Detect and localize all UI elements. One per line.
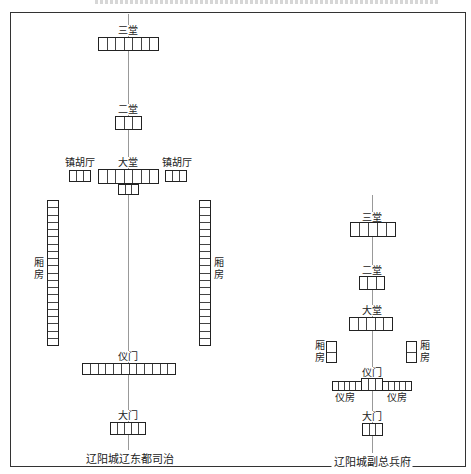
left-damen-block [110, 422, 146, 435]
left-xiangfang-left-label: 厢房 [33, 257, 44, 281]
left-ertang-block [115, 116, 142, 130]
left-zhenhuting-left-block [69, 170, 91, 182]
right-yifang-right-block [382, 381, 412, 391]
right-damen-label: 大门 [361, 411, 383, 422]
left-ertang-label: 二堂 [117, 104, 139, 115]
right-datang-label: 大堂 [361, 305, 383, 316]
left-zhenhuting-left-label: 镇胡厅 [64, 157, 96, 168]
right-plan-caption: 辽阳城副总兵府 [332, 453, 413, 469]
right-yimen-label: 仪门 [361, 367, 383, 378]
right-damen-block [362, 423, 383, 436]
left-xiangfang-right-block [199, 200, 211, 346]
left-santang-label: 三堂 [117, 25, 139, 36]
left-datang-rear-block [118, 184, 139, 195]
right-yifang-right-label: 仪房 [386, 392, 408, 403]
right-xiangfang-right-label: 厢房 [419, 340, 430, 364]
left-datang-label: 大堂 [117, 157, 139, 168]
left-zhenhuting-right-label: 镇胡厅 [161, 157, 193, 168]
left-xiangfang-right-label: 厢房 [213, 257, 224, 281]
left-yimen-label: 仪门 [117, 351, 139, 362]
right-datang-block [349, 317, 393, 331]
right-xiangfang-left-label: 厢房 [314, 340, 325, 364]
right-yimen-block [361, 378, 383, 391]
right-ertang-block [359, 276, 385, 290]
right-xiangfang-left-block [326, 341, 337, 363]
right-yifang-left-block [332, 381, 362, 391]
left-plan-caption: 辽阳城辽东都司治 [84, 450, 176, 466]
right-xiangfang-right-block [406, 341, 417, 363]
left-zhenhuting-right-block [165, 170, 187, 182]
truncated-figure-title [95, 0, 440, 4]
right-yifang-left-label: 仪房 [334, 392, 356, 403]
left-damen-label: 大门 [117, 410, 139, 421]
left-xiangfang-left-block [47, 200, 59, 346]
left-datang-block [98, 169, 159, 184]
right-santang-block [350, 222, 396, 237]
right-ertang-label: 二堂 [361, 265, 383, 276]
left-central-axis [128, 14, 129, 454]
left-santang-block [98, 37, 159, 51]
left-yimen-block [82, 363, 176, 375]
